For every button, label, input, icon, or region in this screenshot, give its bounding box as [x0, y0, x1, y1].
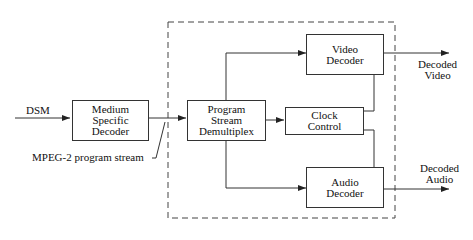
block-text: Decoder [326, 55, 363, 66]
block-text: Demultiplex [199, 126, 254, 137]
block-audio-decoder: Audio Decoder [306, 167, 384, 208]
output-label-audio: Decoded Audio [420, 163, 459, 185]
block-text: Decoder [92, 126, 129, 137]
block-video-decoder: Video Decoder [306, 34, 384, 75]
block-medium-specific-decoder: Medium Specific Decoder [72, 100, 149, 141]
block-text: Control [308, 121, 342, 132]
output-label-video: Decoded Video [418, 59, 457, 81]
block-text: Video [326, 44, 363, 55]
output-text: Video [418, 70, 457, 81]
input-label-dsm: DSM [26, 105, 50, 116]
block-clock-control: Clock Control [285, 107, 364, 135]
block-program-stream-demultiplex: Program Stream Demultiplex [187, 100, 266, 141]
output-text: Audio [420, 174, 459, 185]
block-text: Audio [326, 177, 363, 188]
block-text: Decoder [326, 188, 363, 199]
stream-label: MPEG-2 program stream [32, 152, 144, 163]
